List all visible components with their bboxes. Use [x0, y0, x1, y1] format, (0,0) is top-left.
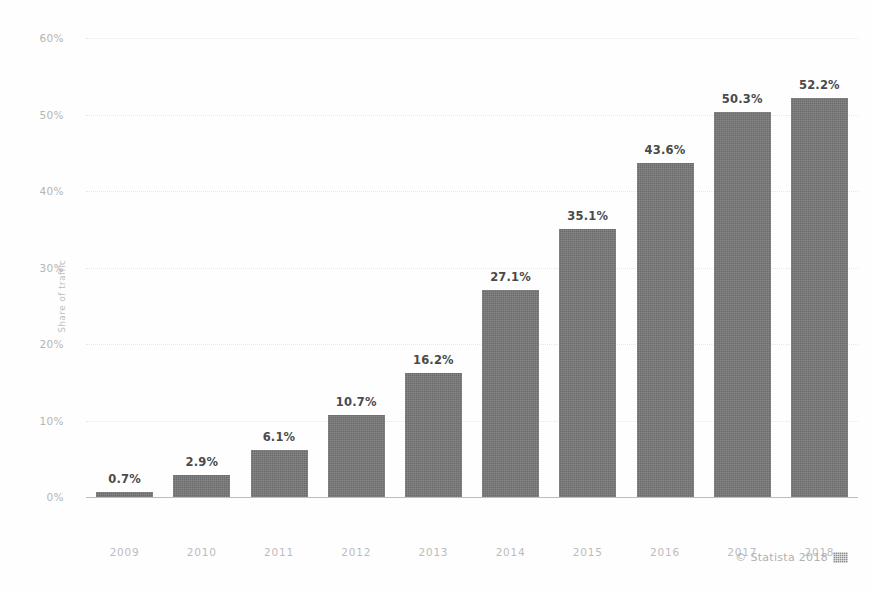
axis-baseline [86, 497, 858, 498]
bar-group[interactable]: 10.7% [328, 38, 385, 497]
bar[interactable] [637, 163, 694, 497]
bars-group: 0.7%2.9%6.1%10.7%16.2%27.1%35.1%43.6%50.… [86, 38, 858, 497]
bar[interactable] [405, 373, 462, 497]
chart-container: Share of traffic 0%10%20%30%40%50%60% 0.… [0, 0, 870, 592]
y-axis-tick-label: 30% [18, 262, 64, 274]
bar-group[interactable]: 27.1% [482, 38, 539, 497]
plot-area: 0%10%20%30%40%50%60% 0.7%2.9%6.1%10.7%16… [86, 38, 858, 497]
bar-value-label: 27.1% [469, 270, 552, 284]
x-axis-tick-label: 2011 [238, 546, 321, 558]
y-axis-tick-label: 10% [18, 415, 64, 427]
bar[interactable] [173, 475, 230, 497]
y-axis-tick-label: 20% [18, 338, 64, 350]
bar-group[interactable]: 16.2% [405, 38, 462, 497]
copyright-text: © Statista 2018 [735, 551, 828, 564]
bar-value-label: 2.9% [160, 455, 243, 469]
x-axis-tick-label: 2010 [160, 546, 243, 558]
bar-value-label: 6.1% [238, 430, 321, 444]
bar-value-label: 52.2% [778, 78, 861, 92]
y-axis-tick-label: 60% [18, 32, 64, 44]
x-axis-tick-label: 2013 [392, 546, 475, 558]
bar-value-label: 0.7% [83, 472, 166, 486]
x-axis-tick-label: 2012 [315, 546, 398, 558]
bar[interactable] [482, 290, 539, 497]
bar-value-label: 16.2% [392, 353, 475, 367]
x-axis-tick-label: 2009 [83, 546, 166, 558]
footer: © Statista 2018 [735, 551, 848, 564]
y-axis-tick-label: 0% [18, 491, 64, 503]
bar-group[interactable]: 0.7% [96, 38, 153, 497]
x-axis-tick-label: 2014 [469, 546, 552, 558]
bar-group[interactable]: 52.2% [791, 38, 848, 497]
statista-flag-icon [833, 552, 848, 563]
bar-value-label: 10.7% [315, 395, 398, 409]
x-axis-tick-label: 2016 [624, 546, 707, 558]
bar-group[interactable]: 50.3% [714, 38, 771, 497]
bar-value-label: 43.6% [624, 143, 707, 157]
bar-group[interactable]: 35.1% [559, 38, 616, 497]
bar-group[interactable]: 43.6% [637, 38, 694, 497]
bar-group[interactable]: 2.9% [173, 38, 230, 497]
bar[interactable] [791, 98, 848, 497]
y-axis-tick-label: 40% [18, 185, 64, 197]
bar[interactable] [559, 229, 616, 498]
bar[interactable] [96, 492, 153, 497]
bar-value-label: 35.1% [546, 209, 629, 223]
bar[interactable] [328, 415, 385, 497]
bar[interactable] [251, 450, 308, 497]
bar[interactable] [714, 112, 771, 497]
y-axis-tick-label: 50% [18, 109, 64, 121]
bar-value-label: 50.3% [701, 92, 784, 106]
x-axis-tick-label: 2015 [546, 546, 629, 558]
bar-group[interactable]: 6.1% [251, 38, 308, 497]
